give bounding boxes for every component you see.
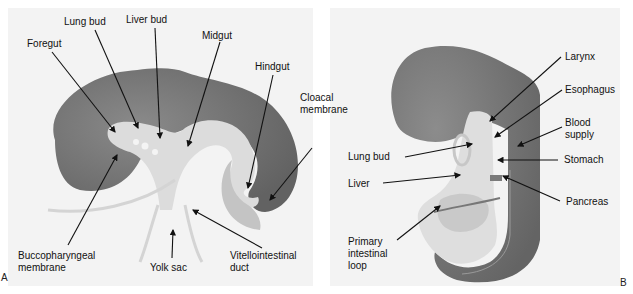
panel-letter-b: B xyxy=(620,277,627,288)
label-liver: Liver xyxy=(348,178,370,190)
label-foregut: Foregut xyxy=(27,38,61,50)
label-stomach: Stomach xyxy=(564,154,603,166)
label-hindgut: Hindgut xyxy=(255,61,289,73)
label-liver-bud: Liver bud xyxy=(126,14,167,26)
label-yolk-sac: Yolk sac xyxy=(150,262,187,274)
label-lung-bud-a: Lung bud xyxy=(64,16,106,28)
label-primary-intestinal-loop: Primary intestinal loop xyxy=(348,236,387,272)
label-larynx: Larynx xyxy=(565,51,595,63)
label-esophagus: Esophagus xyxy=(565,84,615,96)
panel-b-embryo xyxy=(391,46,540,282)
label-lung-bud-b: Lung bud xyxy=(348,151,390,163)
label-buccopharyngeal-membrane: Buccopharyngeal membrane xyxy=(18,250,95,274)
label-cloacal-membrane: Cloacal membrane xyxy=(300,92,348,116)
label-vitellointestinal-duct: Vitellointestinal duct xyxy=(230,250,297,274)
panel-letter-a: A xyxy=(1,272,8,283)
label-midgut: Midgut xyxy=(202,30,232,42)
label-blood-supply: Blood supply xyxy=(565,117,594,141)
label-pancreas: Pancreas xyxy=(566,196,608,208)
